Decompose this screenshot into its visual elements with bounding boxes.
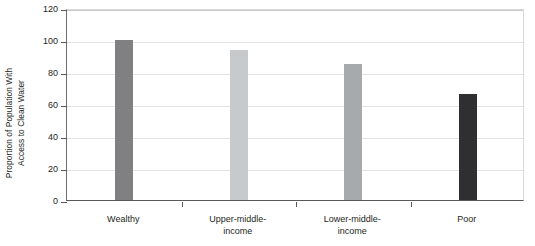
y-axis-tick-label: 60 (28, 101, 58, 110)
y-axis-tick (61, 170, 67, 171)
y-axis-tick-labels: 020406080100120 (28, 9, 58, 201)
y-axis-tick-label: 120 (28, 5, 58, 14)
gridline (67, 106, 523, 107)
y-axis-tick-label: 80 (28, 69, 58, 78)
y-axis-tick-label: 20 (28, 165, 58, 174)
y-axis-title-text: Proportion of Population With Access to … (3, 8, 28, 238)
x-axis-tick-label: Lower-middle- income (324, 214, 381, 237)
bar (230, 50, 248, 200)
y-axis-tick (61, 10, 67, 11)
x-axis-tick-label: Poor (457, 214, 476, 226)
bar (459, 94, 477, 200)
gridline (67, 42, 523, 43)
y-axis-tick-label: 40 (28, 133, 58, 142)
y-axis-tick (61, 106, 67, 107)
gridline (67, 74, 523, 75)
y-axis-tick (61, 74, 67, 75)
y-axis-tick (61, 138, 67, 139)
y-axis-tick-label: 100 (28, 37, 58, 46)
plot-area (66, 9, 524, 201)
gridline (67, 170, 523, 171)
x-axis-tick-label: Upper-middle- income (209, 214, 266, 237)
bar (115, 40, 133, 200)
plot-inner (67, 10, 523, 200)
x-axis-tick-label: Wealthy (107, 214, 139, 226)
y-axis-tick (61, 42, 67, 43)
y-axis-tick-label: 0 (28, 197, 58, 206)
y-axis-title: Proportion of Population With Access to … (0, 0, 30, 246)
bar-chart-figure: Proportion of Population With Access to … (0, 0, 535, 246)
bar (344, 64, 362, 200)
y-axis-tick (61, 202, 67, 203)
gridline (67, 10, 523, 11)
gridline (67, 138, 523, 139)
x-axis-tick-labels: WealthyUpper-middle- incomeLower-middle-… (66, 207, 524, 246)
